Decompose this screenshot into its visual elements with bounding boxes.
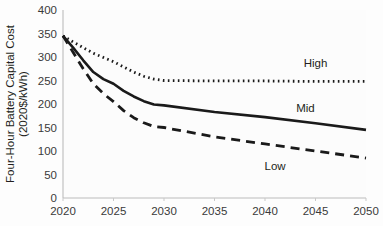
y-tick-label: 350 [38,28,57,40]
x-axis-tick-labels: 2020202520302035204020452050 [50,198,379,217]
plot-background [63,10,366,198]
y-tick-label: 50 [44,169,57,181]
y-tick-label: 400 [38,4,57,16]
y-axis-title-line1: Four-Hour Battery Capital Cost [4,24,16,183]
y-tick-label: 200 [38,98,57,110]
battery-cost-line-chart: 050100150200250300350400 202020252030203… [0,0,383,226]
series-label-low: Low [265,160,287,172]
x-tick-label: 2040 [252,205,278,217]
chart-container: 050100150200250300350400 202020252030203… [0,0,383,226]
series-label-mid: Mid [296,102,315,114]
series-label-high: High [304,57,328,69]
y-axis-tick-labels: 050100150200250300350400 [38,4,57,204]
x-tick-label: 2020 [50,205,76,217]
y-tick-label: 150 [38,122,57,134]
x-tick-label: 2025 [101,205,127,217]
y-tick-label: 250 [38,75,57,87]
x-tick-label: 2050 [353,205,379,217]
y-axis-title-line2: (2020$/kWh) [17,71,29,137]
y-tick-label: 100 [38,145,57,157]
y-tick-label: 0 [51,192,57,204]
x-tick-label: 2030 [151,205,177,217]
x-tick-label: 2035 [202,205,228,217]
y-tick-label: 300 [38,51,57,63]
x-tick-label: 2045 [303,205,329,217]
y-axis-title-group: Four-Hour Battery Capital Cost (2020$/kW… [4,24,29,183]
